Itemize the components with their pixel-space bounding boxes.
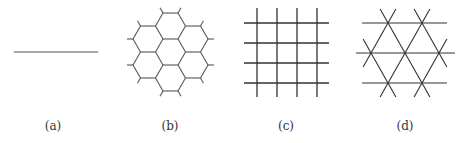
panel-d-label: (d) xyxy=(396,119,413,133)
honeycomb-bond xyxy=(156,78,164,91)
honeycomb-bond xyxy=(156,65,164,78)
dangling-bond xyxy=(160,8,163,13)
honeycomb-bond xyxy=(201,52,209,65)
honeycomb-bond xyxy=(201,39,209,52)
honeycomb-bond xyxy=(178,26,186,39)
panel-b-honeycomb xyxy=(127,8,214,96)
dangling-bond xyxy=(138,78,141,83)
panel-b-label: (b) xyxy=(161,119,178,133)
dangling-bond xyxy=(178,91,181,96)
dangling-bond xyxy=(201,21,204,26)
lattice-diagonal-line xyxy=(363,39,396,97)
honeycomb-bond xyxy=(178,65,186,78)
honeycomb-bond xyxy=(133,39,141,52)
lattice-diagonal-line xyxy=(414,39,447,97)
honeycomb-bond xyxy=(178,39,186,52)
dangling-bond xyxy=(138,21,141,26)
lattice-diagonal-line xyxy=(414,9,447,67)
panel-a-label: (a) xyxy=(45,119,62,133)
panel-c-label: (c) xyxy=(278,119,294,133)
honeycomb-bond xyxy=(201,65,209,78)
honeycomb-bond xyxy=(133,26,141,39)
honeycomb-bond xyxy=(133,52,141,65)
honeycomb-bond xyxy=(156,39,164,52)
honeycomb-bond xyxy=(178,13,186,26)
honeycomb-bond xyxy=(178,78,186,91)
panel-d-triangular-lattice xyxy=(356,9,455,97)
dangling-bond xyxy=(201,78,204,83)
honeycomb-bond xyxy=(201,26,209,39)
honeycomb-bond xyxy=(156,52,164,65)
lattice-diagonal-line xyxy=(363,9,396,67)
dangling-bond xyxy=(178,8,181,13)
honeycomb-bond xyxy=(156,13,164,26)
honeycomb-bond xyxy=(178,52,186,65)
honeycomb-bond xyxy=(156,26,164,39)
lattice-figure: (a) (b) (c) (d) xyxy=(0,0,465,143)
honeycomb-bond xyxy=(133,65,141,78)
panel-c-square-grid xyxy=(244,8,329,97)
dangling-bond xyxy=(160,91,163,96)
